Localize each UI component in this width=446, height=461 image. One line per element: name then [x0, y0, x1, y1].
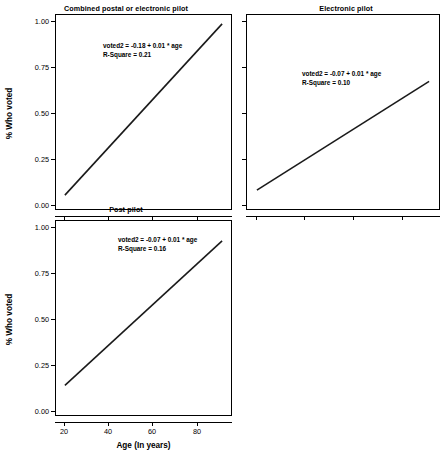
- y-tick-label: 0.25: [22, 155, 49, 164]
- annotation-equation: voted2 = -0.07 + 0.01 * age: [302, 70, 381, 79]
- x-tick-mark: [304, 216, 305, 220]
- panel-title: Electronic pilot: [246, 4, 446, 13]
- panel-post-pilot: Post pilot % Who voted 1.00 0.75 0.50 0.…: [0, 205, 240, 461]
- y-tick-label: 1.00: [22, 17, 49, 26]
- panel-annotation: voted2 = -0.07 + 0.01 * age R-Square = 0…: [302, 70, 381, 87]
- annotation-equation: voted2 = -0.18 + 0.01 * age: [103, 42, 182, 51]
- y-tick-label: 0.75: [22, 269, 49, 278]
- x-tick-label: 60: [148, 427, 156, 436]
- x-tick-label: 80: [193, 427, 201, 436]
- regression-figure: Combined postal or electronic pilot % Wh…: [0, 0, 446, 461]
- x-axis-title: Age (In years): [55, 441, 232, 450]
- regression-line: [247, 15, 439, 209]
- plot-area: [246, 14, 440, 210]
- x-axis-line: [246, 216, 440, 217]
- annotation-r-square: R-Square = 0.16: [118, 245, 197, 254]
- panel-annotation: voted2 = -0.18 + 0.01 * age R-Square = 0…: [103, 42, 182, 59]
- y-axis-title: % Who voted: [5, 289, 14, 351]
- y-axis-title: % Who voted: [5, 83, 14, 145]
- x-tick-mark: [152, 422, 153, 426]
- annotation-r-square: R-Square = 0.10: [302, 79, 381, 88]
- x-tick-mark: [64, 422, 65, 426]
- x-tick-mark: [353, 216, 354, 220]
- annotation-r-square: R-Square = 0.21: [103, 51, 182, 60]
- y-tick-label: 0.75: [22, 63, 49, 72]
- x-tick-mark: [402, 216, 403, 220]
- y-tick-label: 0.50: [22, 315, 49, 324]
- panel-title: Post pilot: [20, 205, 232, 214]
- panel-combined-postal-or-electronic-pilot: Combined postal or electronic pilot % Wh…: [0, 4, 240, 219]
- x-tick-mark: [197, 422, 198, 426]
- panel-annotation-text: voted2 = -0.07 + 0.01 * age R-Square = 0…: [118, 236, 197, 253]
- x-tick-label: 40: [104, 427, 112, 436]
- x-tick-mark: [108, 422, 109, 426]
- annotation-equation: voted2 = -0.07 + 0.01 * age: [118, 236, 197, 245]
- x-axis-line: [55, 422, 232, 423]
- panel-electronic-pilot: Electronic pilot voted2 = -0.07 + 0.01 *…: [240, 4, 446, 219]
- y-tick-label: 1.00: [22, 223, 49, 232]
- y-tick-label: 0.50: [22, 109, 49, 118]
- x-tick-mark: [256, 216, 257, 220]
- y-tick-label: 0.25: [22, 361, 49, 370]
- y-tick-label: 0.00: [22, 407, 49, 416]
- x-tick-label: 20: [60, 427, 68, 436]
- panel-title: Combined postal or electronic pilot: [20, 4, 232, 13]
